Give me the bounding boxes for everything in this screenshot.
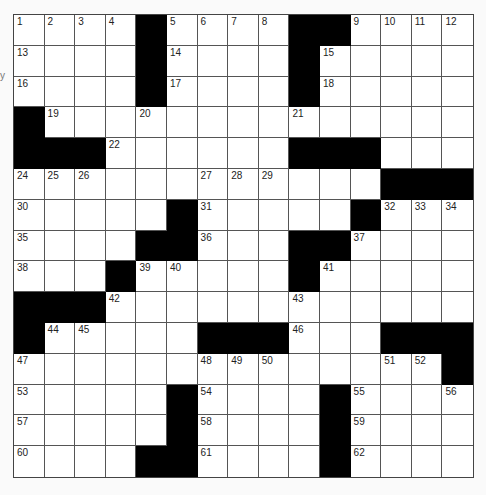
grid-cell[interactable] xyxy=(442,46,473,77)
grid-cell[interactable] xyxy=(198,77,229,108)
grid-cell[interactable] xyxy=(412,415,443,446)
grid-cell[interactable]: 35 xyxy=(14,231,45,262)
grid-cell[interactable]: 28 xyxy=(228,169,259,200)
grid-cell[interactable] xyxy=(75,385,106,416)
grid-cell[interactable] xyxy=(259,231,290,262)
grid-cell[interactable]: 16 xyxy=(14,77,45,108)
grid-cell[interactable] xyxy=(136,292,167,323)
grid-cell[interactable] xyxy=(228,200,259,231)
grid-cell[interactable] xyxy=(412,77,443,108)
grid-cell[interactable] xyxy=(167,138,198,169)
grid-cell[interactable]: 41 xyxy=(320,261,351,292)
grid-cell[interactable] xyxy=(381,415,412,446)
grid-cell[interactable] xyxy=(351,169,382,200)
grid-cell[interactable] xyxy=(442,415,473,446)
grid-cell[interactable] xyxy=(259,415,290,446)
grid-cell[interactable] xyxy=(289,446,320,477)
grid-cell[interactable] xyxy=(106,46,137,77)
grid-cell[interactable] xyxy=(381,231,412,262)
grid-cell[interactable] xyxy=(289,354,320,385)
grid-cell[interactable]: 42 xyxy=(106,292,137,323)
grid-cell[interactable] xyxy=(106,415,137,446)
grid-cell[interactable] xyxy=(412,138,443,169)
grid-cell[interactable]: 58 xyxy=(198,415,229,446)
grid-cell[interactable]: 37 xyxy=(351,231,382,262)
grid-cell[interactable] xyxy=(75,107,106,138)
grid-cell[interactable]: 25 xyxy=(45,169,76,200)
grid-cell[interactable] xyxy=(228,415,259,446)
grid-cell[interactable] xyxy=(198,292,229,323)
grid-cell[interactable] xyxy=(259,292,290,323)
grid-cell[interactable]: 51 xyxy=(381,354,412,385)
grid-cell[interactable] xyxy=(228,77,259,108)
grid-cell[interactable] xyxy=(412,46,443,77)
grid-cell[interactable] xyxy=(289,415,320,446)
grid-cell[interactable] xyxy=(351,261,382,292)
grid-cell[interactable]: 48 xyxy=(198,354,229,385)
grid-cell[interactable] xyxy=(167,107,198,138)
grid-cell[interactable] xyxy=(167,354,198,385)
grid-cell[interactable] xyxy=(412,261,443,292)
grid-cell[interactable] xyxy=(136,169,167,200)
grid-cell[interactable] xyxy=(75,446,106,477)
grid-cell[interactable] xyxy=(412,292,443,323)
grid-cell[interactable] xyxy=(381,46,412,77)
grid-cell[interactable] xyxy=(75,231,106,262)
grid-cell[interactable] xyxy=(442,292,473,323)
grid-cell[interactable]: 14 xyxy=(167,46,198,77)
grid-cell[interactable]: 7 xyxy=(228,15,259,46)
grid-cell[interactable]: 57 xyxy=(14,415,45,446)
grid-cell[interactable] xyxy=(136,200,167,231)
grid-cell[interactable] xyxy=(198,46,229,77)
grid-cell[interactable]: 3 xyxy=(75,15,106,46)
grid-cell[interactable] xyxy=(381,77,412,108)
grid-cell[interactable] xyxy=(442,231,473,262)
grid-cell[interactable]: 38 xyxy=(14,261,45,292)
grid-cell[interactable]: 9 xyxy=(351,15,382,46)
grid-cell[interactable] xyxy=(198,261,229,292)
grid-cell[interactable] xyxy=(106,77,137,108)
grid-cell[interactable] xyxy=(45,46,76,77)
grid-cell[interactable] xyxy=(198,107,229,138)
grid-cell[interactable] xyxy=(75,415,106,446)
grid-cell[interactable]: 62 xyxy=(351,446,382,477)
grid-cell[interactable]: 36 xyxy=(198,231,229,262)
grid-cell[interactable] xyxy=(320,200,351,231)
grid-cell[interactable] xyxy=(45,385,76,416)
grid-cell[interactable] xyxy=(228,107,259,138)
grid-cell[interactable] xyxy=(167,323,198,354)
grid-cell[interactable] xyxy=(381,107,412,138)
grid-cell[interactable]: 11 xyxy=(412,15,443,46)
grid-cell[interactable] xyxy=(259,138,290,169)
grid-cell[interactable]: 22 xyxy=(106,138,137,169)
grid-cell[interactable] xyxy=(228,231,259,262)
grid-cell[interactable]: 44 xyxy=(45,323,76,354)
grid-cell[interactable]: 46 xyxy=(289,323,320,354)
grid-cell[interactable] xyxy=(106,446,137,477)
grid-cell[interactable]: 2 xyxy=(45,15,76,46)
grid-cell[interactable]: 39 xyxy=(136,261,167,292)
grid-cell[interactable] xyxy=(320,354,351,385)
grid-cell[interactable]: 12 xyxy=(442,15,473,46)
grid-cell[interactable]: 34 xyxy=(442,200,473,231)
grid-cell[interactable] xyxy=(320,292,351,323)
grid-cell[interactable]: 8 xyxy=(259,15,290,46)
grid-cell[interactable] xyxy=(351,77,382,108)
grid-cell[interactable]: 21 xyxy=(289,107,320,138)
grid-cell[interactable]: 4 xyxy=(106,15,137,46)
grid-cell[interactable]: 53 xyxy=(14,385,45,416)
grid-cell[interactable] xyxy=(320,107,351,138)
grid-cell[interactable] xyxy=(136,415,167,446)
grid-cell[interactable] xyxy=(442,261,473,292)
grid-cell[interactable]: 31 xyxy=(198,200,229,231)
grid-cell[interactable] xyxy=(167,292,198,323)
grid-cell[interactable] xyxy=(289,169,320,200)
grid-cell[interactable] xyxy=(259,46,290,77)
grid-cell[interactable] xyxy=(228,138,259,169)
grid-cell[interactable]: 27 xyxy=(198,169,229,200)
grid-cell[interactable] xyxy=(198,138,229,169)
grid-cell[interactable] xyxy=(106,169,137,200)
grid-cell[interactable]: 19 xyxy=(45,107,76,138)
grid-cell[interactable] xyxy=(228,446,259,477)
grid-cell[interactable] xyxy=(289,385,320,416)
